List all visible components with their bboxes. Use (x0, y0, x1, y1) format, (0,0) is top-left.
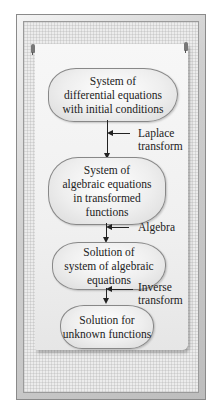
edge-arrow-1 (107, 120, 108, 156)
node-line: Solution for (63, 313, 151, 327)
edge-label-line: Inverse (138, 281, 183, 294)
node-line: System of (63, 74, 164, 88)
node-line: differential equations (63, 88, 164, 102)
edge-label-line: Algebra (138, 221, 175, 234)
node-line: system of algebraic (64, 259, 153, 273)
arrowhead-down-icon (103, 298, 109, 304)
edge-label-line: Laplace (138, 127, 183, 140)
arrowhead-left-icon (106, 224, 112, 230)
edge-label-pointer (110, 289, 133, 290)
node-line: algebraic equations (62, 177, 151, 191)
edge-label-pointer (110, 227, 129, 228)
edge-label-line: transform (138, 294, 183, 307)
edge-label-algebra: Algebra (138, 221, 175, 234)
edge-label-line: transform (138, 140, 183, 153)
node-algebraic-equations: System of algebraic equations in transfo… (48, 157, 166, 225)
edge-label-pointer (111, 133, 130, 134)
arrowhead-left-icon (106, 286, 112, 292)
node-line: functions (62, 205, 151, 219)
node-line: System of (62, 163, 151, 177)
node-line: in transformed (62, 191, 151, 205)
node-line: with initial conditions (63, 102, 164, 116)
node-line: Solution of (64, 245, 153, 259)
edge-label-laplace: Laplace transform (138, 127, 183, 153)
arrowhead-left-icon (107, 130, 113, 136)
pushpin-right-icon (184, 42, 188, 51)
node-differential-equations: System of differential equations with in… (48, 68, 178, 122)
node-unknown-functions: Solution for unknown functions (60, 305, 154, 349)
edge-label-inverse: Inverse transform (138, 281, 183, 307)
pushpin-left-icon (31, 44, 35, 53)
node-line: unknown functions (63, 327, 151, 341)
